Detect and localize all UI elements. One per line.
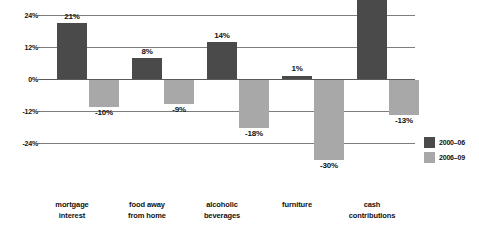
legend-item[interactable]: 2006–09 xyxy=(424,151,465,164)
category-line-2: beverages xyxy=(185,210,259,221)
category-line-1: furniture xyxy=(260,199,334,210)
category-line-1: mortgage xyxy=(35,199,109,210)
bar-value-label: -30% xyxy=(302,162,356,170)
bar-value-label: 21% xyxy=(45,13,99,21)
y-axis-tick-label: -12% xyxy=(4,108,38,115)
x-axis-category-label: mortgage interest xyxy=(35,199,109,221)
legend-swatch-icon xyxy=(424,137,435,148)
bar-group: 8% -9% xyxy=(127,12,201,188)
bar-group: 14% -18% xyxy=(202,12,276,188)
bar-value-label: -13% xyxy=(377,117,431,125)
plot-area: 21% -10% 8% -9% 14% -18% 1% -30% xyxy=(40,12,415,188)
category-line-2: interest xyxy=(35,210,109,221)
y-axis-tick-label: 0% xyxy=(4,76,38,83)
legend-item[interactable]: 2000–06 xyxy=(424,136,465,149)
category-line-1: food away xyxy=(110,199,184,210)
bar-series1[interactable] xyxy=(132,58,162,79)
y-axis-tick-label: 24% xyxy=(4,12,38,19)
category-line-2: contributions xyxy=(335,210,409,221)
bar-value-label: 1% xyxy=(270,65,324,73)
bar-value-label: -18% xyxy=(227,130,281,138)
bar-group: 21% -10% xyxy=(52,12,126,188)
bar-series2[interactable] xyxy=(89,80,119,107)
bar-value-label: -10% xyxy=(77,109,131,117)
bar-group: 1% -30% xyxy=(277,12,351,188)
legend-item-label: 2000–06 xyxy=(439,139,465,146)
legend-item-label: 2006–09 xyxy=(439,154,465,161)
bar-series1[interactable] xyxy=(282,76,312,79)
category-line-2: from home xyxy=(110,210,184,221)
bar-series1[interactable] xyxy=(57,23,87,79)
legend: 2000–06 2006–09 xyxy=(424,136,465,166)
x-axis-category-label: cash contributions xyxy=(335,199,409,221)
bar-series2[interactable] xyxy=(164,80,194,104)
bar-series1[interactable] xyxy=(357,0,387,79)
x-axis-category-label: food away from home xyxy=(110,199,184,221)
bar-value-label: 8% xyxy=(120,48,174,56)
bar-series2[interactable] xyxy=(239,80,269,128)
legend-swatch-icon xyxy=(424,152,435,163)
bar-series2[interactable] xyxy=(389,80,419,115)
bar-series1[interactable] xyxy=(207,42,237,79)
y-axis-tick-label: -24% xyxy=(4,140,38,147)
bar-group: 34% -13% xyxy=(352,12,426,188)
y-axis-tick-label: 12% xyxy=(4,44,38,51)
y-axis: 24% 12% 0% -12% -24% xyxy=(0,12,38,188)
bar-chart: 24% 12% 0% -12% -24% 21% -10% 8% -9 xyxy=(0,0,479,243)
bar-value-label: -9% xyxy=(152,106,206,114)
bar-value-label: 14% xyxy=(195,32,249,40)
x-axis-category-label: furniture xyxy=(260,199,334,210)
bar-series2[interactable] xyxy=(314,80,344,160)
category-line-1: cash xyxy=(335,199,409,210)
x-axis-category-label: alcoholic beverages xyxy=(185,199,259,221)
category-line-1: alcoholic xyxy=(185,199,259,210)
